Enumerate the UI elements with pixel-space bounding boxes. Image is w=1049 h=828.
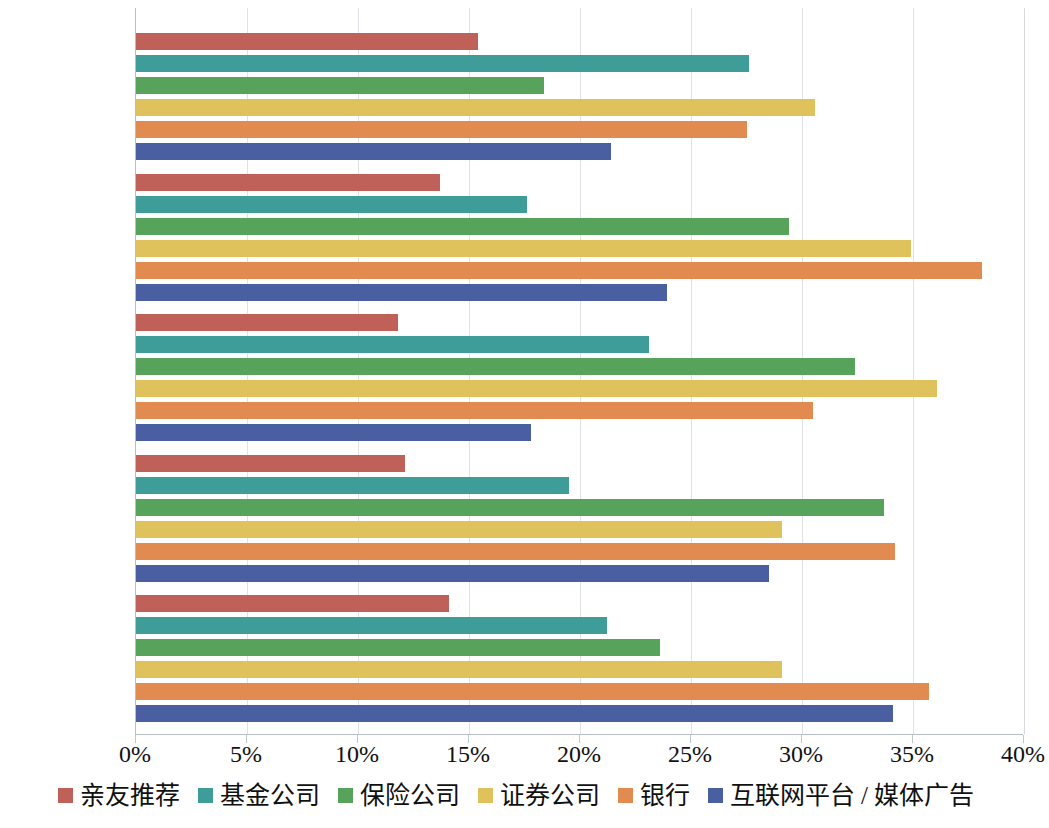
bar[interactable] [136, 455, 405, 472]
gridline [1024, 8, 1025, 734]
bar[interactable] [136, 595, 449, 612]
bar-fill [136, 262, 982, 279]
bar-fill [136, 424, 531, 441]
bar[interactable] [136, 99, 815, 116]
legend-label: 基金公司 [220, 783, 320, 808]
bar-fill [136, 521, 782, 538]
bar[interactable] [136, 143, 611, 160]
bar[interactable] [136, 77, 544, 94]
x-axis-tick-label: 0% [75, 741, 195, 768]
bar[interactable] [136, 543, 895, 560]
legend-swatch-icon [338, 788, 353, 803]
x-axis-tick-label: 20% [519, 741, 639, 768]
legend-item[interactable]: 亲友推荐 [58, 783, 180, 808]
bar[interactable] [136, 521, 782, 538]
legend-swatch-icon [708, 788, 723, 803]
bar-fill [136, 284, 667, 301]
bar-fill [136, 477, 569, 494]
bar[interactable] [136, 617, 607, 634]
bar-fill [136, 639, 660, 656]
bar[interactable] [136, 683, 929, 700]
bar-fill [136, 33, 478, 50]
bar[interactable] [136, 477, 569, 494]
legend-swatch-icon [618, 788, 633, 803]
legend-item[interactable]: 互联网平台 / 媒体广告 [708, 783, 974, 808]
bar-fill [136, 565, 769, 582]
bar-fill [136, 380, 937, 397]
bar-fill [136, 336, 649, 353]
bar-fill [136, 240, 911, 257]
bar-fill [136, 77, 544, 94]
bar-fill [136, 174, 440, 191]
bar[interactable] [136, 284, 667, 301]
bar-group [136, 314, 1023, 441]
legend-label: 证券公司 [500, 783, 600, 808]
bar[interactable] [136, 380, 937, 397]
bar[interactable] [136, 336, 649, 353]
bar[interactable] [136, 262, 982, 279]
legend-label: 亲友推荐 [80, 783, 180, 808]
legend-item[interactable]: 基金公司 [198, 783, 320, 808]
bar[interactable] [136, 240, 911, 257]
bar-fill [136, 402, 813, 419]
bar-fill [136, 543, 895, 560]
bar[interactable] [136, 218, 789, 235]
bar-fill [136, 143, 611, 160]
x-axis-tick-label: 25% [630, 741, 750, 768]
x-axis-tick-label: 10% [297, 741, 417, 768]
bar-fill [136, 499, 884, 516]
bar-fill [136, 218, 789, 235]
bar-group [136, 595, 1023, 722]
bar-fill [136, 314, 398, 331]
legend-swatch-icon [198, 788, 213, 803]
bar-group [136, 455, 1023, 582]
legend-item[interactable]: 银行 [618, 783, 690, 808]
bar-fill [136, 705, 893, 722]
bar[interactable] [136, 174, 440, 191]
legend-item[interactable]: 保险公司 [338, 783, 460, 808]
bar-fill [136, 121, 747, 138]
legend-item[interactable]: 证券公司 [478, 783, 600, 808]
bar[interactable] [136, 314, 398, 331]
bar[interactable] [136, 661, 782, 678]
x-axis-tick-label: 15% [408, 741, 528, 768]
x-axis-tick-label: 5% [186, 741, 306, 768]
bar[interactable] [136, 33, 478, 50]
chart-legend: 亲友推荐基金公司保险公司证券公司银行互联网平台 / 媒体广告 [0, 783, 1032, 808]
bar[interactable] [136, 55, 749, 72]
bar[interactable] [136, 424, 531, 441]
legend-label: 互联网平台 / 媒体广告 [730, 783, 974, 808]
bar-fill [136, 617, 607, 634]
bar-fill [136, 683, 929, 700]
legend-swatch-icon [478, 788, 493, 803]
legend-label: 保险公司 [360, 783, 460, 808]
bar[interactable] [136, 565, 769, 582]
bar[interactable] [136, 358, 855, 375]
bar[interactable] [136, 705, 893, 722]
bar-fill [136, 595, 449, 612]
x-axis-tick-label: 35% [852, 741, 972, 768]
bar[interactable] [136, 639, 660, 656]
legend-label: 银行 [640, 783, 690, 808]
x-axis-tick-label: 30% [741, 741, 861, 768]
bar[interactable] [136, 196, 527, 213]
bar-fill [136, 55, 749, 72]
bar[interactable] [136, 121, 747, 138]
x-axis-tick-label: 40% [963, 741, 1049, 768]
bar[interactable] [136, 499, 884, 516]
bar-fill [136, 661, 782, 678]
bar-group [136, 174, 1023, 301]
legend-swatch-icon [58, 788, 73, 803]
bar-group [136, 33, 1023, 160]
bar-fill [136, 196, 527, 213]
bar-fill [136, 99, 815, 116]
plot-area [135, 8, 1023, 735]
bar-fill [136, 455, 405, 472]
bar[interactable] [136, 402, 813, 419]
bar-fill [136, 358, 855, 375]
